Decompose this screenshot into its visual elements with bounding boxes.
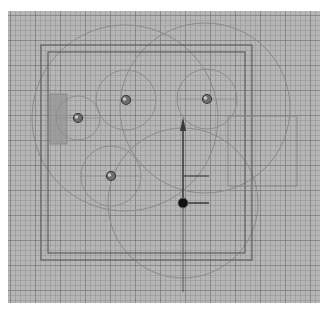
light-bulb-icon[interactable] (74, 114, 83, 123)
room-inner-boundary[interactable] (48, 52, 245, 253)
light-range-circle (120, 23, 290, 193)
point-light-light-1[interactable] (56, 96, 100, 140)
point-light-light-3[interactable] (177, 69, 237, 129)
wall-panel-object[interactable] (50, 94, 67, 144)
point-light-light-4[interactable] (81, 146, 141, 206)
light-bulb-icon[interactable] (107, 172, 116, 181)
adjacent-object-outline[interactable] (228, 116, 297, 186)
light-bulb-icon[interactable] (203, 95, 212, 104)
point-light-light-2[interactable] (96, 70, 156, 130)
light-bulb-icon[interactable] (122, 96, 131, 105)
room-outer-boundary[interactable] (41, 45, 252, 260)
scene-canvas[interactable] (8, 11, 320, 303)
viewport-3d-top[interactable] (8, 11, 320, 303)
move-gizmo[interactable] (178, 117, 209, 292)
gizmo-pivot-icon[interactable] (178, 198, 188, 208)
